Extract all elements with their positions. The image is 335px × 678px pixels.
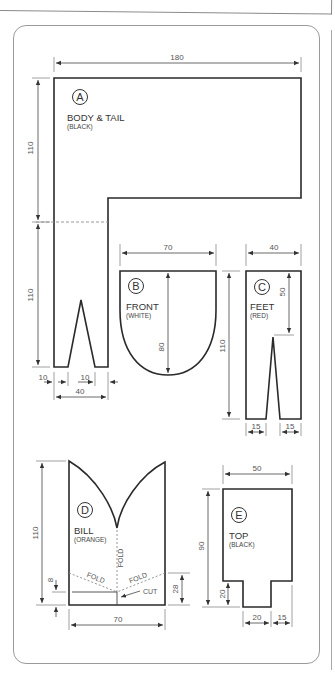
- piece-d-name: BILL: [74, 525, 94, 536]
- dim-b-height: 80: [157, 342, 166, 351]
- piece-a-name: BODY & TAIL: [67, 112, 125, 123]
- cut-label: CUT: [143, 588, 158, 595]
- dim-c-height: 110: [218, 339, 227, 352]
- piece-e-letter: E: [235, 509, 242, 521]
- dim-e-height: 90: [197, 541, 206, 550]
- dim-e-right-offset: 15: [278, 613, 287, 622]
- piece-d-color: (ORANGE): [74, 536, 107, 544]
- fold-label-right: FOLD: [128, 571, 148, 584]
- dim-a-lower-height: 110: [26, 288, 35, 301]
- piece-c-letter: C: [258, 281, 266, 293]
- dim-c-foot-left: 15: [252, 422, 261, 431]
- piece-b-color: (WHITE): [126, 312, 151, 320]
- piece-c-feet: 40 110 50 15 15 C FEET (RED): [218, 243, 301, 436]
- pattern-diagram: 180 110 110 10 10 40 A BODY & TAIL (BLAC…: [0, 0, 335, 678]
- dim-d-side: 28: [171, 584, 180, 593]
- dim-d-width: 70: [114, 615, 123, 624]
- dim-a-stem-width: 40: [76, 387, 85, 396]
- dim-c-width: 40: [270, 243, 279, 252]
- fold-label-left: FOLD: [86, 571, 106, 584]
- piece-e-color: (BLACK): [229, 541, 255, 549]
- piece-c-color: (RED): [250, 312, 268, 320]
- piece-c-name: FEET: [250, 301, 274, 312]
- piece-b-front: 70 80 B FRONT (WHITE): [120, 243, 216, 375]
- dim-a-left-margin: 10: [39, 373, 48, 382]
- piece-e-top: 50 90 20 20 15 E TOP (BLACK): [197, 464, 292, 627]
- piece-b-letter: B: [132, 280, 139, 292]
- dim-c-notch-depth: 50: [278, 287, 287, 296]
- dim-e-tab-height: 20: [218, 589, 227, 598]
- dim-a-width: 180: [170, 53, 184, 62]
- dim-e-width: 50: [253, 464, 262, 473]
- fold-label-center: FOLD: [117, 549, 124, 568]
- dim-d-cut-offset: 8: [46, 577, 55, 582]
- piece-a-color: (BLACK): [67, 123, 93, 131]
- dim-e-tab-width: 20: [253, 613, 262, 622]
- dim-a-upper-height: 110: [26, 141, 35, 154]
- piece-b-name: FRONT: [126, 301, 159, 312]
- piece-d-letter: D: [81, 504, 89, 516]
- piece-e-name: TOP: [229, 530, 248, 541]
- dim-d-height: 110: [31, 526, 40, 539]
- dim-a-notch: 10: [81, 373, 90, 382]
- dim-b-width: 70: [164, 243, 173, 252]
- piece-d-bill: FOLD FOLD FOLD CUT 110 8 28 70 D BILL (O…: [31, 461, 190, 630]
- piece-a-letter: A: [76, 91, 84, 103]
- dim-c-foot-right: 15: [286, 422, 295, 431]
